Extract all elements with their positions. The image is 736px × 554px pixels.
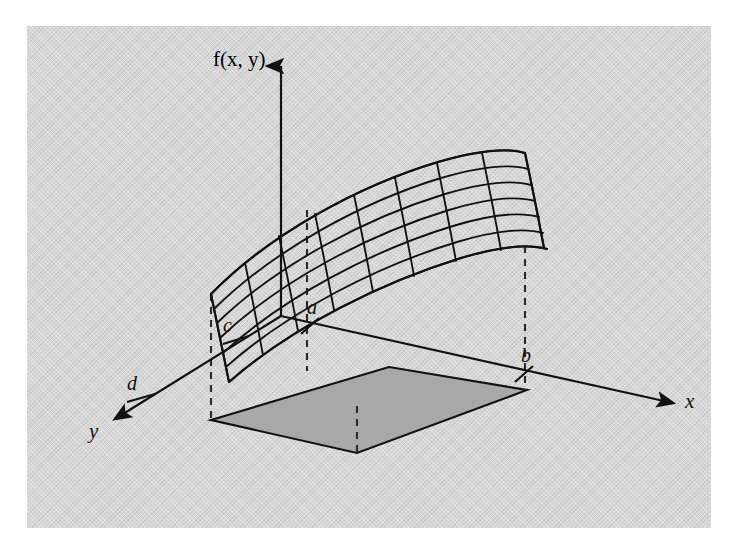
f-axis-label: f(x, y)	[213, 47, 265, 71]
x-axis-label: x	[684, 389, 695, 413]
bound-label-b: b	[521, 344, 531, 366]
mesh-v-line-1	[245, 263, 263, 355]
axes-group	[115, 66, 673, 419]
bound-label-d: d	[127, 372, 138, 394]
bound-label-a: a	[307, 296, 317, 318]
y-axis-label: y	[87, 419, 99, 443]
figure-panel: f(x, y) x y a b c d	[27, 26, 711, 528]
mesh-surface	[211, 150, 547, 382]
mesh-v-lines	[211, 153, 544, 382]
base-region-polygon	[211, 367, 527, 453]
y-axis-line	[115, 316, 281, 419]
bound-label-c: c	[223, 314, 232, 336]
surface-diagram: f(x, y) x y a b c d	[27, 26, 711, 528]
shaded-rectangle	[211, 367, 527, 453]
mesh-boundary-back	[211, 150, 525, 294]
figure-root: f(x, y) x y a b c d	[0, 0, 736, 554]
mesh-boundary-right	[525, 153, 544, 248]
mesh-boundary-left	[211, 294, 229, 382]
mesh-u-line-0	[211, 150, 525, 294]
